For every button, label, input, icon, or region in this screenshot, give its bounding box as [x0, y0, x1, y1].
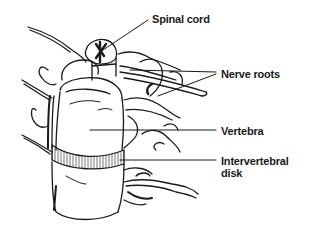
leader-spinal-cord	[100, 20, 148, 52]
vertebra-upper	[56, 60, 124, 150]
label-nerve-roots: Nerve roots	[221, 68, 280, 80]
spinal-cord	[85, 39, 116, 80]
label-intervertebral-disk-line1: Intervertebral	[221, 155, 289, 167]
vertebra-lower	[52, 162, 124, 220]
label-intervertebral-disk-line2: disk	[221, 167, 289, 179]
intervertebral-disk	[52, 145, 124, 169]
label-intervertebral-disk: Intervertebral disk	[221, 155, 289, 179]
spine-illustration	[0, 0, 312, 233]
label-spinal-cord: Spinal cord	[152, 13, 210, 25]
label-vertebra: Vertebra	[221, 125, 263, 137]
